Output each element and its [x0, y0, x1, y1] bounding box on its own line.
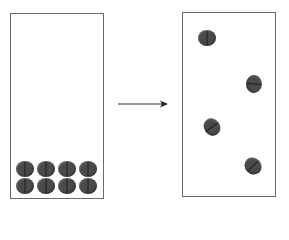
pill-packed	[16, 178, 34, 194]
pill-packed	[58, 161, 76, 177]
pill-score-line	[88, 179, 89, 192]
pill-score-line	[67, 162, 68, 175]
pill-packed	[58, 178, 76, 194]
pill-score-line	[46, 162, 47, 175]
pill-score-line	[46, 179, 47, 192]
pill-packed	[37, 161, 55, 177]
pill-packed	[79, 178, 97, 194]
pill-score-line	[88, 162, 89, 175]
pill-score-line	[247, 83, 260, 85]
pill-score-line	[67, 179, 68, 192]
pill-packed	[16, 161, 34, 177]
pill-packed	[79, 161, 97, 177]
pill-score-line	[248, 161, 258, 171]
pill-score-line	[206, 123, 218, 132]
pill-score-line	[25, 179, 26, 192]
pill-score-line	[207, 31, 208, 44]
pill-score-line	[25, 162, 26, 175]
pill-dispersed	[198, 30, 216, 46]
pill-packed	[37, 178, 55, 194]
